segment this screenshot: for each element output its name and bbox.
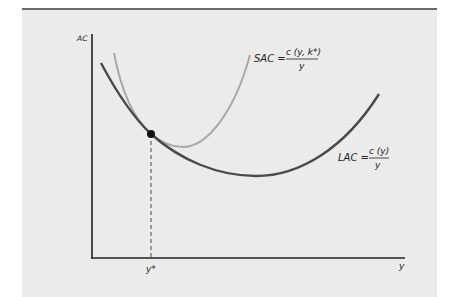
sac-lhs: SAC = — [254, 53, 286, 64]
tangency-point — [147, 130, 155, 138]
lac-denominator: y — [374, 160, 381, 170]
sac-curve — [114, 53, 250, 147]
sac-numerator: c (y, k*) — [286, 47, 321, 57]
lac-lhs: LAC = — [338, 152, 369, 163]
x-tick-label-y-star: y* — [145, 264, 156, 274]
sac-denominator: y — [298, 61, 305, 71]
x-axis-label: y — [398, 261, 405, 271]
sac-formula-label: SAC = c (y, k*) y — [254, 47, 321, 71]
lac-formula-label: LAC = c (y) y — [338, 146, 389, 170]
lac-numerator: c (y) — [369, 146, 389, 156]
y-axis-label: AC — [76, 34, 88, 43]
